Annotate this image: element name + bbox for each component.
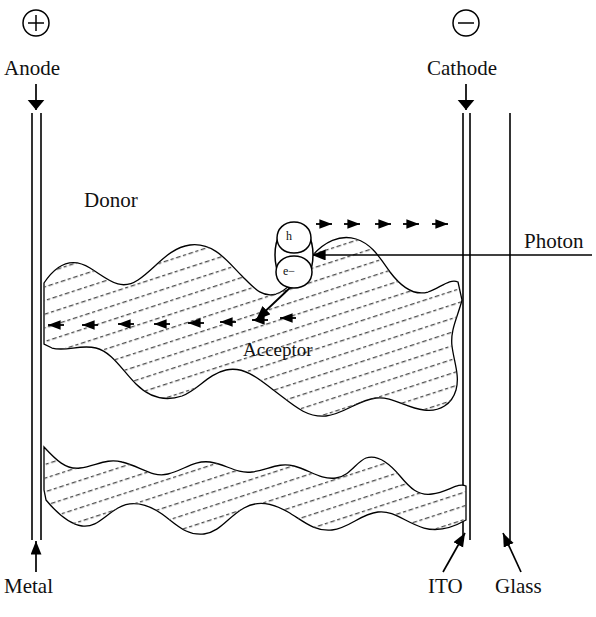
schematic-drawing	[0, 0, 596, 617]
acceptor-blob-bottom	[30, 440, 480, 550]
anode-label: Anode	[4, 58, 60, 79]
ito-up-arrow	[443, 533, 465, 572]
glass-up-arrow	[503, 533, 521, 572]
glass-label: Glass	[495, 576, 542, 597]
acceptor-hatch-bottom	[30, 440, 480, 550]
cathode-polarity-symbol	[453, 10, 479, 36]
acceptor-label: Acceptor	[243, 340, 313, 359]
donor-label: Donor	[84, 190, 138, 211]
photon-label: Photon	[524, 231, 584, 252]
cathode-label: Cathode	[427, 58, 497, 79]
acceptor-blob-top	[30, 230, 480, 430]
anode-polarity-symbol	[23, 10, 49, 36]
hole-circle	[277, 222, 311, 253]
ito-label: ITO	[428, 576, 463, 597]
acceptor-hatch-top	[30, 230, 480, 430]
metal-label: Metal	[4, 576, 53, 597]
diagram-canvas: Anode Cathode Donor Acceptor Photon Meta…	[0, 0, 596, 617]
hole-label: h	[286, 230, 292, 242]
electron-label: e−	[283, 265, 295, 277]
exciton-group	[275, 222, 313, 288]
